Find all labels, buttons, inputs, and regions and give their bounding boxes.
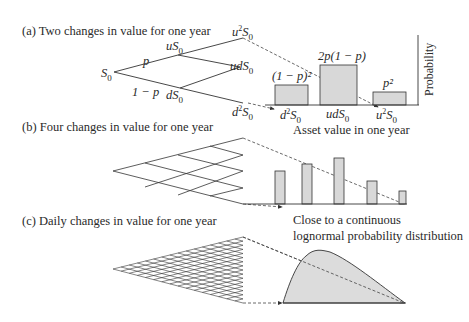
node-dS0: dS0	[166, 89, 183, 105]
node-S0: S0	[101, 67, 112, 83]
category-udS0: udS0	[326, 108, 349, 124]
bar-u2S0	[373, 92, 406, 105]
bar-udS0	[320, 65, 357, 105]
y-axis-label: Probability	[423, 96, 469, 108]
diagram-canvas	[0, 0, 469, 322]
bar-label-3: p²	[383, 77, 393, 90]
caption-line-1: Close to a continuous	[293, 214, 401, 227]
bar-d2S0	[275, 85, 308, 105]
panel-b-title: (b) Four changes in value for one year	[22, 121, 213, 134]
node-u2S0: u2S0	[232, 25, 253, 42]
panel-a-title: (a) Two changes in value for one year	[22, 25, 211, 38]
node-uS0: uS0	[166, 40, 183, 56]
dense-lattice-daily	[113, 237, 243, 303]
mapping-arrows-b	[243, 138, 404, 207]
prob-down: 1 − p	[132, 86, 159, 99]
binomial-lattice-four-step	[113, 138, 245, 204]
prob-up: p	[143, 55, 149, 68]
x-axis-label: Asset value in one year	[293, 124, 410, 137]
histogram-b	[245, 158, 407, 204]
node-udS0: udS0	[230, 60, 253, 76]
lognormal-distribution	[283, 250, 406, 303]
bar-label-1: (1 − p)²	[272, 70, 311, 83]
panel-c-title: (c) Daily changes in value for one year	[22, 215, 217, 228]
caption-line-2: lognormal probability distribution	[293, 230, 463, 243]
bar-label-2: 2p(1 − p)	[318, 50, 366, 63]
node-d2S0: d2S0	[232, 105, 253, 122]
